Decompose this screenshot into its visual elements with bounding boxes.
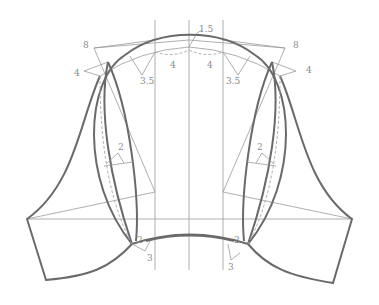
label-right-35: 3.5	[226, 76, 241, 86]
label-left-bottom-3: 3	[147, 253, 153, 263]
label-left-outer-8: 8	[83, 40, 89, 50]
label-right-mid-2: 2	[257, 142, 263, 152]
inner-top-curve	[100, 47, 280, 76]
marker-35-lines	[130, 52, 250, 75]
label-right-4: 4	[306, 65, 312, 75]
label-left-4: 4	[74, 68, 80, 78]
left-sleeve-outline	[27, 76, 132, 280]
vertical-guides	[155, 20, 223, 270]
label-left-35: 3.5	[140, 76, 155, 86]
label-left-mid-2: 2	[118, 142, 124, 152]
label-left-bottom-2: 2	[137, 235, 143, 245]
slanted-guides	[27, 40, 352, 219]
label-top-center: 1.5	[199, 24, 214, 34]
label-right-bottom-3: 3	[228, 262, 234, 272]
sleeve-pattern-diagram: 1.5 8 8 4 4 3.5 3.5 4 4 2 2 3 3 2 2	[0, 0, 379, 305]
label-center-right-4: 4	[207, 60, 213, 70]
label-right-bottom-2: 2	[234, 235, 240, 245]
label-right-outer-8: 8	[293, 40, 299, 50]
right-sleeve-outline	[248, 76, 352, 283]
marker-2-mid-lines	[104, 153, 276, 166]
label-center-left-4: 4	[170, 60, 176, 70]
